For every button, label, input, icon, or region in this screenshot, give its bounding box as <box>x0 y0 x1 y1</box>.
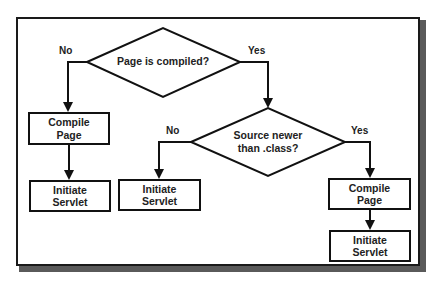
process-compile-page-left: Compile Page <box>28 112 110 145</box>
decision-text-line2: than .class? <box>218 142 318 155</box>
process-text-line1: Initiate <box>353 234 387 247</box>
label-d1-no: No <box>59 45 72 56</box>
decision-text-page-compiled: Page is compiled? <box>113 55 213 68</box>
label-d2-yes: Yes <box>351 125 368 136</box>
process-initiate-servlet-left: Initiate Servlet <box>29 180 111 212</box>
label-d2-no: No <box>166 125 179 136</box>
decision-text-line1: Source newer <box>218 129 318 142</box>
process-initiate-servlet-right: Initiate Servlet <box>329 230 411 262</box>
process-initiate-servlet-middle: Initiate Servlet <box>118 179 201 211</box>
process-text-line2: Page <box>56 129 81 142</box>
process-compile-page-right: Compile Page <box>328 178 411 210</box>
process-text-line2: Page <box>357 194 382 207</box>
process-text-line1: Initiate <box>143 183 177 196</box>
process-text-line1: Compile <box>48 116 89 129</box>
process-text-line1: Initiate <box>53 184 87 197</box>
process-text-line2: Servlet <box>52 196 87 209</box>
process-text-line2: Servlet <box>142 195 177 208</box>
arrow-d1-yes <box>240 62 268 100</box>
process-text-line1: Compile <box>349 182 390 195</box>
label-d1-yes: Yes <box>248 45 265 56</box>
process-text-line2: Servlet <box>352 246 387 259</box>
arrow-d2-no <box>159 142 191 171</box>
arrow-d1-no <box>68 62 87 104</box>
arrow-d2-yes <box>345 142 370 170</box>
decision-text-source-newer: Source newer than .class? <box>218 129 318 155</box>
